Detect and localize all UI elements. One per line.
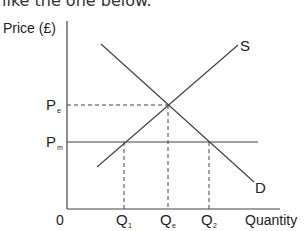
supply-demand-diagram: Price (£) S D P e P m 0 Q 1 Q e Q 2 Quan… bbox=[0, 0, 306, 231]
x-axis-label: Quantity bbox=[245, 212, 297, 228]
pm-subscript: m bbox=[57, 144, 63, 151]
q2-label: Q bbox=[201, 211, 213, 228]
q1-subscript: 1 bbox=[128, 222, 132, 229]
demand-label: D bbox=[255, 179, 266, 196]
pm-label: P bbox=[46, 133, 56, 150]
pe-label: P bbox=[46, 96, 56, 113]
y-axis-label: Price (£) bbox=[3, 20, 56, 36]
origin-label: 0 bbox=[56, 212, 64, 228]
pe-subscript: e bbox=[57, 107, 61, 114]
demand-curve bbox=[101, 44, 254, 182]
qe-label: Q bbox=[160, 211, 172, 228]
qe-subscript: e bbox=[172, 222, 176, 229]
q2-subscript: 2 bbox=[213, 222, 217, 229]
q1-label: Q bbox=[116, 211, 128, 228]
supply-label: S bbox=[240, 37, 250, 54]
